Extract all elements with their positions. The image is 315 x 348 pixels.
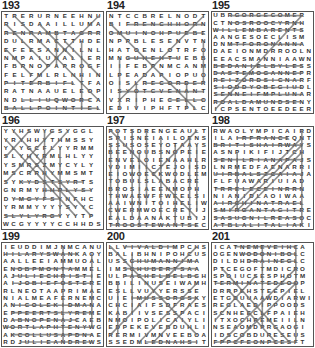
grid-letter: A — [252, 280, 259, 287]
grid-letter: R — [2, 20, 10, 28]
grid-letter: C — [179, 178, 186, 185]
grid-letter: M — [136, 338, 143, 345]
grid-letter: I — [115, 62, 123, 70]
grid-letter: I — [193, 149, 200, 156]
grid-letter — [95, 135, 103, 143]
grid-letter: M — [64, 169, 72, 177]
puzzle-number: 193 — [1, 0, 104, 10]
grid-letter: R — [19, 62, 27, 70]
grid-letter: I — [212, 105, 219, 112]
grid-letter: I — [38, 338, 45, 345]
grid-letter: C — [299, 258, 306, 265]
grid-letter: I — [234, 48, 241, 55]
grid-letter: R — [41, 152, 49, 160]
grid-letter: A — [291, 178, 298, 185]
grid-letter: B — [150, 149, 157, 156]
grid-letter: E — [149, 54, 157, 62]
grid-letter: I — [107, 87, 115, 95]
grid-letter: Y — [33, 212, 41, 220]
grid-letter: Y — [72, 186, 80, 194]
grid-letter: R — [25, 169, 33, 177]
grid-letter: R — [10, 135, 18, 143]
grid-letter: O — [114, 178, 121, 185]
grid-letter: R — [94, 29, 102, 37]
grid-letter: B — [164, 324, 171, 331]
grid-letter: F — [72, 195, 80, 203]
grid-letter — [306, 250, 313, 257]
grid-letter: I — [193, 207, 200, 214]
puzzle-200: 200 LLVIVALDIMPCHSBALIBHNIPOHCUSUSSCHUMA… — [106, 231, 209, 347]
grid-letter: A — [94, 79, 102, 87]
grid-letter: M — [255, 48, 262, 55]
grid-letter: O — [69, 96, 77, 104]
grid-letter: U — [179, 324, 186, 331]
grid-letter: A — [186, 302, 193, 309]
grid-letter: S — [79, 135, 87, 143]
grid-letter: E — [241, 105, 248, 112]
grid-letter: L — [27, 104, 35, 112]
grid-letter: T — [299, 338, 306, 345]
grid-letter: A — [36, 20, 44, 28]
grid-letter: L — [94, 104, 102, 112]
grid-letter: Y — [79, 203, 87, 211]
grid-letter: O — [166, 46, 174, 54]
grid-letter: T — [255, 105, 262, 112]
grid-letter: W — [88, 324, 95, 331]
grid-letter: K — [298, 221, 305, 228]
grid-letter: W — [33, 127, 41, 135]
grid-letter: S — [67, 280, 74, 287]
grid-letter: A — [52, 338, 59, 345]
grid-letter: N — [52, 46, 60, 54]
grid-letter: Y — [87, 161, 95, 169]
grid-letter: S — [157, 302, 164, 309]
grid-letter: Y — [41, 203, 49, 211]
grid-letter: D — [164, 302, 171, 309]
grid-letter — [306, 272, 313, 279]
grid-letter: E — [45, 302, 52, 309]
grid-letter: S — [157, 37, 165, 45]
grid-letter — [306, 331, 313, 338]
grid-letter: T — [166, 54, 174, 62]
grid-letter: L — [16, 258, 23, 265]
grid-letter: F — [94, 62, 102, 70]
grid-letter: Y — [56, 161, 64, 169]
grid-letter: E — [157, 12, 165, 20]
grid-letter: D — [33, 178, 41, 186]
grid-letter: S — [48, 195, 56, 203]
grid-letter: R — [172, 207, 179, 214]
grid-letter: M — [59, 258, 66, 265]
grid-letter: R — [298, 207, 305, 214]
grid-letter: R — [186, 178, 193, 185]
grid-letter: A — [164, 221, 171, 228]
grid-letter: G — [48, 212, 56, 220]
grid-letter: V — [157, 87, 165, 95]
grid-letter: Y — [17, 152, 25, 160]
grid-letter: I — [284, 178, 291, 185]
grid-letter: I — [10, 20, 18, 28]
grid-letter — [306, 280, 313, 287]
grid-letter: I — [141, 104, 149, 112]
grid-letter: A — [172, 338, 179, 345]
grid-letter: A — [132, 71, 140, 79]
grid-letter: T — [291, 207, 298, 214]
grid-letter: H — [136, 258, 143, 265]
grid-letter: G — [72, 127, 80, 135]
grid-letter: C — [272, 338, 279, 345]
grid-letter: Y — [25, 178, 33, 186]
grid-letter: E — [121, 149, 128, 156]
grid-letter: S — [56, 127, 64, 135]
puzzle-number: 198 — [211, 115, 314, 125]
grid-letter: L — [248, 221, 255, 228]
grid-letter: U — [174, 29, 182, 37]
puzzle-196: 196 YYHSWYGSYGGLYRYHHYTHMSSYYLYGCFLYYRMM… — [1, 115, 104, 230]
grid-letter: N — [248, 48, 255, 55]
grid-letter: N — [2, 54, 10, 62]
grid-letter: N — [52, 12, 60, 20]
grid-letter: B — [52, 29, 60, 37]
grid-letter: U — [277, 178, 284, 185]
grid-letter: A — [2, 258, 9, 265]
puzzle-197: 197 POTSDRENGEAULTSPISNEIAILOENSSSUSOSEY… — [106, 115, 209, 230]
grid-letter: U — [234, 178, 241, 185]
grid-letter: T — [262, 207, 269, 214]
grid-letter: E — [27, 79, 35, 87]
